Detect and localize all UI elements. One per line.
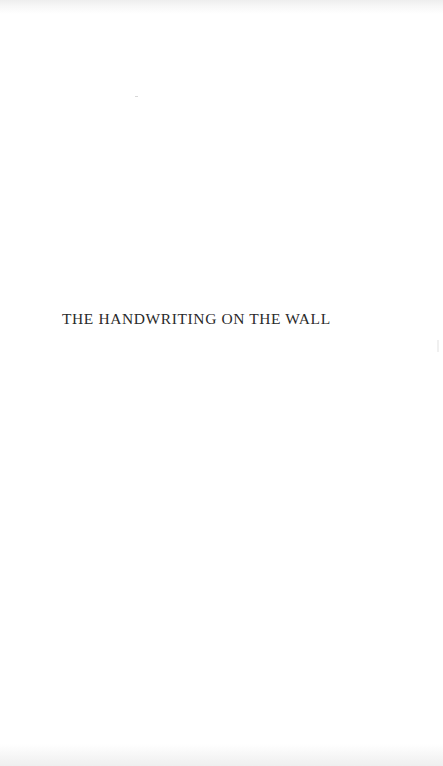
half-title: THE HANDWRITING ON THE WALL — [62, 310, 331, 328]
scan-speck — [135, 96, 138, 97]
scan-mark — [437, 340, 439, 352]
scan-edge-top — [0, 0, 443, 14]
scan-edge-bottom — [0, 744, 443, 766]
book-page: THE HANDWRITING ON THE WALL — [0, 0, 443, 766]
